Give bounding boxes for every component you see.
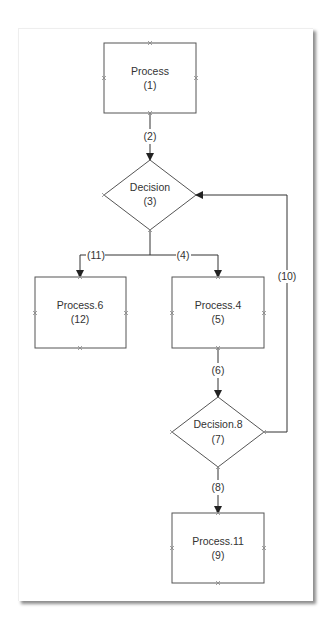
process-node-5[interactable]: Process.4 (5)	[170, 275, 266, 350]
node-number: (1)	[144, 79, 157, 91]
edge-2[interactable]: (2)	[144, 113, 157, 160]
edge-label: (11)	[87, 249, 105, 261]
node-title: Process	[131, 65, 169, 77]
edge-6[interactable]: (6)	[212, 348, 225, 397]
node-title: Process.4	[195, 299, 242, 311]
node-title: Process.6	[57, 299, 104, 311]
node-number: (12)	[71, 313, 90, 325]
edge-label: (4)	[177, 249, 190, 261]
node-title: Decision	[130, 181, 170, 193]
edge-11[interactable]: (11)	[80, 230, 150, 277]
edge-label: (8)	[212, 481, 225, 493]
edge-label: (10)	[278, 270, 297, 282]
edge-8[interactable]: (8)	[212, 467, 225, 513]
edge-label: (2)	[144, 130, 157, 142]
decision-node-7[interactable]: Decision.8 (7)	[170, 397, 266, 469]
node-number: (7)	[212, 433, 225, 445]
node-number: (5)	[212, 313, 225, 325]
edge-label: (6)	[212, 364, 225, 376]
flowchart: (2) (11) (4) (6) (10) (8)	[0, 0, 332, 625]
decision-node-3[interactable]: Decision (3)	[102, 160, 196, 232]
node-number: (3)	[144, 195, 157, 207]
process-node-12[interactable]: Process.6 (12)	[33, 275, 128, 350]
node-number: (9)	[212, 549, 225, 561]
edge-4[interactable]: (4)	[150, 249, 218, 277]
node-title: Decision.8	[193, 418, 242, 430]
process-node-1[interactable]: Process (1)	[102, 41, 198, 115]
process-node-9[interactable]: Process.11 (9)	[170, 511, 266, 585]
node-title: Process.11	[192, 535, 244, 547]
